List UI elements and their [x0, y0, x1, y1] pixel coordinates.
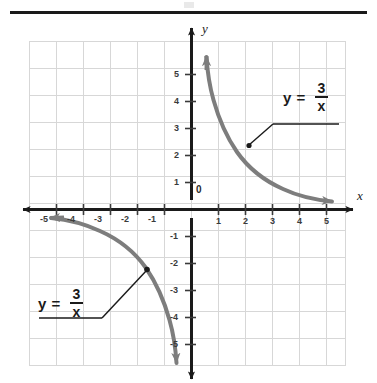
y-tick-label-4: 4: [174, 97, 179, 106]
fraction-lower: 3 x: [70, 287, 83, 319]
y-tick-label-neg3: -3: [170, 286, 178, 295]
graph-figure: y x 0 5 4 3 2 1 -1 -2 -3 -4 -5 -5 -4 -3 …: [0, 0, 377, 383]
y-tick-label-5: 5: [174, 70, 179, 79]
origin-label: 0: [196, 185, 202, 195]
x-tick-label-2: 2: [243, 217, 248, 226]
fraction-denominator-upper: x: [317, 98, 325, 113]
y-tick-label-2: 2: [174, 151, 179, 160]
x-tick-label-neg2: -2: [121, 215, 129, 224]
curve-arrow-left: [50, 217, 64, 218]
equation-lhs-lower: y =: [38, 295, 61, 312]
x-axis-label: x: [357, 189, 363, 202]
fraction-numerator-lower: 3: [72, 287, 80, 302]
x-tick-label-neg4: -4: [67, 215, 75, 224]
y-tick-label-neg4: -4: [170, 313, 178, 322]
y-axis-label: y: [202, 22, 208, 35]
x-tick-label-neg1: -1: [148, 215, 156, 224]
fraction-numerator-upper: 3: [317, 81, 325, 96]
x-tick-label-neg3: -3: [94, 215, 102, 224]
x-tick-label-4: 4: [297, 217, 302, 226]
x-tick-label-1: 1: [216, 217, 221, 226]
equation-lhs-upper: y =: [283, 89, 306, 106]
curve-branch-positive: [207, 57, 333, 202]
y-tick-label-neg5: -5: [170, 340, 178, 349]
x-tick-label-neg5: -5: [40, 215, 48, 224]
equation-label-upper: y = 3 x: [283, 81, 328, 113]
y-tick-label-neg2: -2: [170, 259, 178, 268]
equation-label-lower: y = 3 x: [38, 287, 83, 319]
fraction-upper: 3 x: [315, 81, 328, 113]
x-tick-label-5: 5: [324, 217, 329, 226]
y-tick-label-1: 1: [174, 178, 179, 187]
y-tick-label-neg1: -1: [170, 232, 178, 241]
upper-label-leader: [246, 124, 339, 148]
coordinate-plane: [0, 0, 377, 383]
y-tick-label-3: 3: [174, 124, 179, 133]
fraction-denominator-lower: x: [72, 304, 80, 319]
x-tick-label-3: 3: [270, 217, 275, 226]
